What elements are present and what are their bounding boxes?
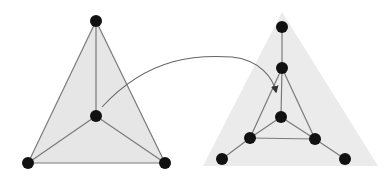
left-graph-node [22,157,34,169]
right-graph-node [309,133,321,145]
right-graph-node [339,153,351,165]
right-graph-node [276,21,288,33]
right-graph-node [275,111,287,123]
right-graph-node [216,153,228,165]
right-graph [203,12,378,166]
right-graph-node [244,132,256,144]
right-graph-node [276,62,288,74]
left-graph-node [90,110,102,122]
diagram-canvas [0,0,386,178]
graph-diagram [0,0,386,178]
right-triangle-region [203,12,378,166]
left-graph-node [159,157,171,169]
left-graph [22,15,171,169]
left-graph-node [90,15,102,27]
